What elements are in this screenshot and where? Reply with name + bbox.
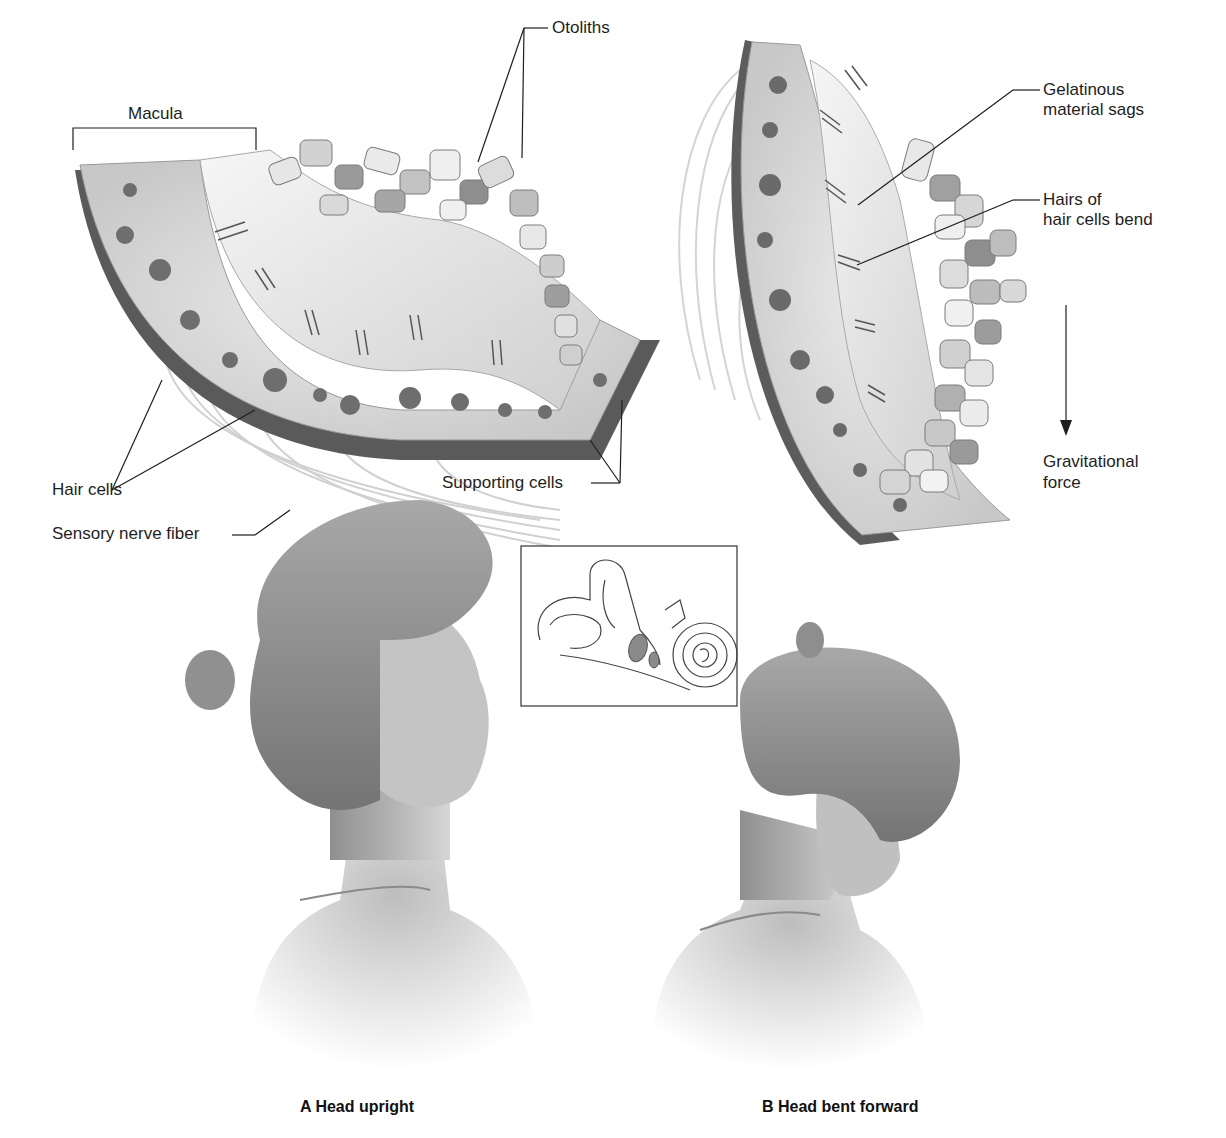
inner-ear-inset bbox=[521, 546, 737, 706]
caption-a: A Head upright bbox=[300, 1098, 414, 1116]
macula-tilted-illustration bbox=[679, 40, 1072, 545]
label-sensory-nerve-fiber: Sensory nerve fiber bbox=[52, 524, 199, 544]
person-head-upright bbox=[185, 500, 540, 1070]
label-gravitational-line1: Gravitational bbox=[1043, 452, 1138, 472]
label-otoliths: Otoliths bbox=[552, 18, 610, 38]
label-gelatinous-line2: material sags bbox=[1043, 100, 1144, 120]
label-macula: Macula bbox=[128, 104, 183, 124]
label-gravitational-line2: force bbox=[1043, 473, 1081, 493]
label-hairs-line2: hair cells bend bbox=[1043, 210, 1153, 230]
label-hair-cells: Hair cells bbox=[52, 480, 122, 500]
illustration-canvas bbox=[0, 0, 1226, 1138]
caption-b: B Head bent forward bbox=[762, 1098, 918, 1116]
label-supporting-cells: Supporting cells bbox=[442, 473, 563, 493]
label-hairs-line1: Hairs of bbox=[1043, 190, 1102, 210]
label-gelatinous-line1: Gelatinous bbox=[1043, 80, 1124, 100]
